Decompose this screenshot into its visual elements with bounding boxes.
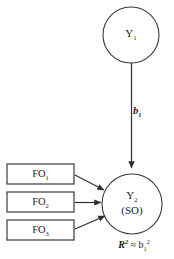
b1-term-subscript: 1 — [144, 245, 147, 252]
edge-fo3-to-y2 — [75, 216, 105, 229]
node-label-y1: Y1 — [111, 28, 151, 41]
node-label-y1-subscript: 1 — [133, 34, 136, 41]
box-label-fo1: FO1 — [7, 168, 74, 182]
box-label-fo2-subscript: 2 — [46, 202, 49, 209]
path-diagram: Y1 Y2 (SO) FO1 FO2 FO3 b1 R2 ≈ b12 — [0, 0, 174, 259]
path-coefficient-label-b1: b1 — [133, 105, 159, 119]
node-label-y2: Y2 — [112, 190, 152, 203]
variance-explained-label: R2 ≈ b12 — [96, 239, 172, 253]
approx-relation: ≈ — [131, 239, 137, 250]
r-squared-symbol: R — [118, 239, 125, 250]
box-label-fo3: FO3 — [7, 224, 74, 238]
box-label-fo1-subscript: 1 — [46, 174, 49, 181]
box-label-fo3-subscript: 3 — [46, 230, 49, 237]
r-squared-exponent: 2 — [125, 238, 128, 245]
edge-fo1-to-y2 — [75, 175, 104, 190]
path-coefficient-subscript: 1 — [138, 111, 141, 118]
b1-term-exponent: 2 — [147, 238, 150, 245]
node-label-y2-second-order: (SO) — [112, 205, 152, 217]
node-label-y2-subscript: 2 — [134, 196, 137, 203]
box-label-fo2: FO2 — [7, 196, 74, 210]
